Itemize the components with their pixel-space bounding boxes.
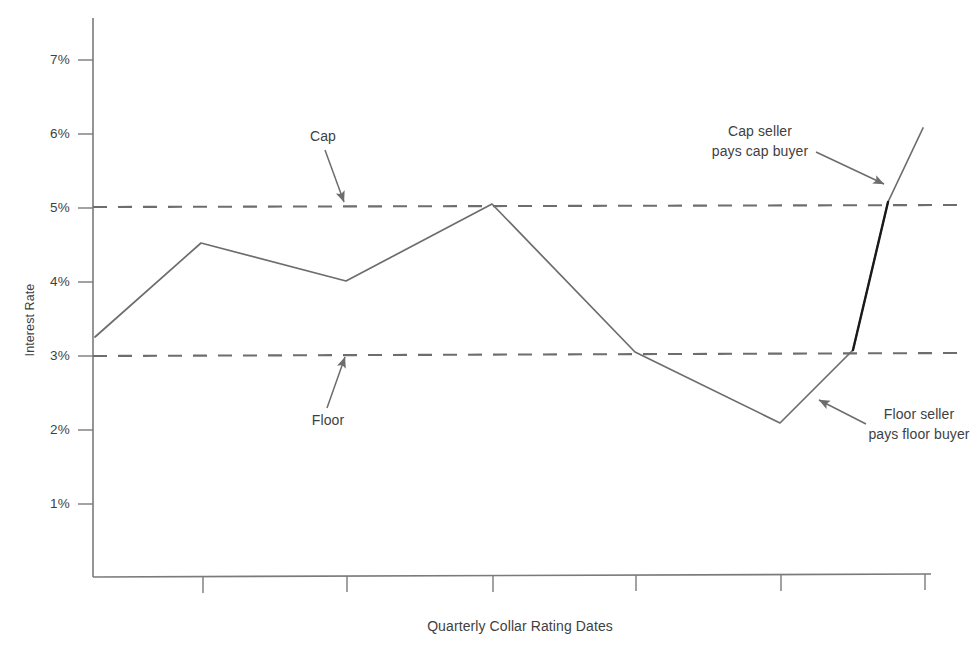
floor-seller-annotation: Floor seller pays floor buyer <box>836 404 979 444</box>
cap-seller-annotation-line2: pays cap buyer <box>678 141 842 161</box>
chart-canvas <box>0 0 979 645</box>
interest-rate-line <box>95 128 923 423</box>
cap-annotation-label: Cap <box>293 126 353 146</box>
floor-label-arrow <box>327 357 345 408</box>
x-axis-line <box>93 574 931 577</box>
cap-seller-annotation: Cap seller pays cap buyer <box>678 121 842 161</box>
y-tick-label-4: 4% <box>40 274 70 289</box>
floor-reference-line <box>93 353 962 356</box>
y-tick-label-5: 5% <box>40 200 70 215</box>
y-tick-label-7: 7% <box>40 52 70 67</box>
floor-seller-annotation-line1: Floor seller <box>884 406 954 422</box>
floor-seller-annotation-line2: pays floor buyer <box>836 424 979 444</box>
y-tick-label-1: 1% <box>40 496 70 511</box>
interest-rate-collar-chart: 7% 6% 5% 4% 3% 2% 1% Interest Rate Quart… <box>0 0 979 645</box>
y-tick-label-2: 2% <box>40 422 70 437</box>
floor-annotation-label: Floor <box>296 410 360 430</box>
y-axis-title: Interest Rate <box>23 275 37 365</box>
y-axis-ticks <box>78 60 93 504</box>
cap-seller-annotation-line1: Cap seller <box>728 123 792 139</box>
x-axis-title: Quarterly Collar Rating Dates <box>380 618 660 634</box>
cap-label-arrow <box>325 150 344 202</box>
y-tick-label-6: 6% <box>40 126 70 141</box>
y-tick-label-3: 3% <box>40 348 70 363</box>
cap-reference-line <box>93 205 962 207</box>
cap-payment-segment <box>853 202 888 350</box>
